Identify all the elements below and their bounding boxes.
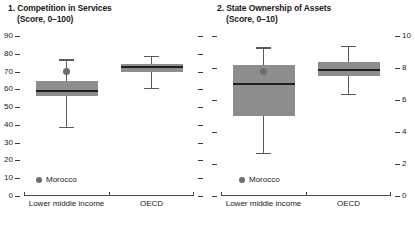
panel-1-title: 1. Competition in Services (Score, 0–100… [8,3,112,25]
panel-2-plot-area: 0246810 [221,36,391,196]
y-tick-left [15,178,20,179]
y-axis-label-60: 60 [4,85,13,93]
y-tick-right [198,196,203,197]
y-tick-left [15,54,20,55]
whisker-cap-lower [341,94,356,96]
y-tick-left [212,164,217,165]
morocco-data-point [260,68,267,75]
y-tick-right [198,36,203,37]
whisker-upper [348,46,350,63]
whisker-lower [151,72,153,90]
median-line [318,69,380,71]
median-line [36,90,98,92]
y-axis-label-4: 4 [402,128,406,136]
y-axis-label-70: 70 [4,68,13,76]
panel-2-title: 2. State Ownership of Assets (Score, 0–1… [217,3,331,25]
panel-1-legend-label: Morocco [46,175,77,184]
y-axis-label-30: 30 [4,139,13,147]
x-axis-label-2: OECD [92,199,212,208]
panel-1-axis-cap-right [193,192,194,196]
panel-1-title-line1: 1. Competition in Services [8,3,112,14]
y-tick-left [212,36,217,37]
median-line [121,66,183,68]
y-tick-left [15,125,20,126]
y-axis-label-50: 50 [4,103,13,111]
box-plot-1 [233,36,295,196]
panel-2-axis-cap-mid [306,192,307,196]
y-tick-left [15,196,20,197]
whisker-cap-upper [256,47,271,49]
y-tick-left [212,196,217,197]
y-tick-right [198,72,203,73]
panel-2-legend: Morocco [239,175,280,184]
median-line [233,83,295,85]
y-axis-label-10: 10 [4,174,13,182]
y-tick-right [198,178,203,179]
panel-2-axis-cap-left [221,192,222,196]
y-axis-label-2: 2 [402,160,406,168]
y-axis-label-6: 6 [402,96,406,104]
y-tick-left [212,132,217,133]
y-tick-left [15,89,20,90]
whisker-lower [66,96,68,128]
y-tick-right [395,68,400,69]
panel-2-legend-label: Morocco [249,175,280,184]
panel-2-axis-cap-right [390,192,391,196]
panel-1-axis-cap-left [24,192,25,196]
y-tick-right [395,100,400,101]
y-tick-right [395,132,400,133]
x-axis-label-2: OECD [289,199,409,208]
whisker-cap-upper [59,59,74,61]
y-tick-right [198,54,203,55]
chart-panel-1: 1. Competition in Services (Score, 0–100… [0,0,207,229]
whisker-cap-upper [341,46,356,48]
whisker-lower [348,76,350,95]
y-axis-label-8: 8 [402,64,406,72]
box-iqr [36,81,98,96]
y-tick-left [15,72,20,73]
panel-1-axis-cap-mid [109,192,110,196]
y-tick-left [15,160,20,161]
whisker-upper [263,47,265,65]
panel-1-plot-area: 0102030405060708090 [24,36,194,196]
morocco-marker-icon [36,177,42,183]
y-tick-right [198,89,203,90]
y-tick-right [395,36,400,37]
y-tick-left [15,107,20,108]
morocco-data-point [63,68,70,75]
figure-root: 1. Competition in Services (Score, 0–100… [0,0,415,229]
box-plot-1 [36,36,98,196]
y-tick-left [15,36,20,37]
panel-2-subtitle: (Score, 0–10) [217,14,331,25]
whisker-cap-upper [144,56,159,58]
y-tick-right [395,196,400,197]
whisker-cap-lower [256,153,271,155]
whisker-lower [263,116,265,154]
chart-panel-2: 2. State Ownership of Assets (Score, 0–1… [208,0,415,229]
y-tick-right [395,164,400,165]
y-axis-label-10: 10 [402,32,411,40]
panel-1-subtitle: (Score, 0–100) [8,14,112,25]
whisker-cap-lower [59,127,74,129]
y-tick-left [212,100,217,101]
y-tick-left [212,68,217,69]
y-axis-label-20: 20 [4,156,13,164]
y-tick-right [198,143,203,144]
whisker-cap-lower [144,88,159,90]
panel-2-title-line1: 2. State Ownership of Assets [217,3,331,14]
y-axis-label-40: 40 [4,121,13,129]
box-plot-2 [121,36,183,196]
y-tick-right [198,125,203,126]
y-tick-right [198,160,203,161]
y-axis-label-80: 80 [4,50,13,58]
y-tick-left [15,143,20,144]
panel-1-legend: Morocco [36,175,77,184]
box-plot-2 [318,36,380,196]
y-tick-right [198,107,203,108]
y-axis-label-90: 90 [4,32,13,40]
morocco-marker-icon [239,177,245,183]
